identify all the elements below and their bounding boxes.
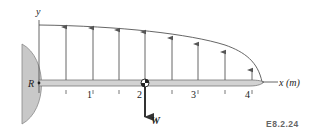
x-ticks <box>66 90 252 94</box>
load-curve <box>39 25 262 82</box>
reaction-point <box>38 82 41 85</box>
x-axis-label: x (m) <box>278 77 300 89</box>
tick-label-1: 1 <box>87 89 92 100</box>
center-of-gravity-icon <box>141 79 149 87</box>
figure-label: E8.2.24 <box>266 119 299 129</box>
wing-beam <box>39 80 264 86</box>
tick-label-2: 2 <box>137 89 142 100</box>
weight-label: W <box>151 115 161 126</box>
tick-label-3: 3 <box>191 89 196 100</box>
reaction-label: R <box>27 78 34 89</box>
diagram-svg: 1 2 3 4 R y x (m) W E8.2.24 <box>0 0 319 135</box>
tick-label-4: 4 <box>245 89 250 100</box>
y-axis-label: y <box>35 6 41 17</box>
load-arrows <box>66 27 252 80</box>
wing-load-diagram: 1 2 3 4 R y x (m) W E8.2.24 <box>0 0 319 135</box>
